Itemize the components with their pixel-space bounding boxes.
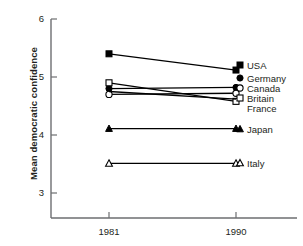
legend-marker-canada — [237, 85, 243, 91]
axes — [51, 19, 297, 218]
legend-marker-britain — [237, 95, 243, 101]
series-line-canada — [109, 93, 236, 94]
data-point-britain-1981 — [106, 80, 112, 86]
series-canada — [106, 90, 239, 97]
series-japan — [106, 125, 240, 131]
series-line-germany — [109, 87, 236, 88]
series-label-italy: Italy — [247, 158, 264, 169]
data-point-usa-1981 — [106, 51, 112, 57]
legend-marker-germany — [237, 75, 243, 81]
series-layer — [106, 51, 244, 166]
chart-figure: Mean democratic confidence 6 5 4 3 1981 … — [0, 0, 303, 246]
plot-area — [0, 0, 303, 246]
series-label-japan: Japan — [247, 124, 273, 135]
series-line-usa — [109, 54, 236, 70]
series-italy — [106, 160, 240, 166]
series-label-france: France — [247, 103, 277, 114]
legend-marker-usa — [237, 62, 243, 68]
series-usa — [106, 51, 239, 73]
series-label-usa: USA — [247, 60, 267, 71]
